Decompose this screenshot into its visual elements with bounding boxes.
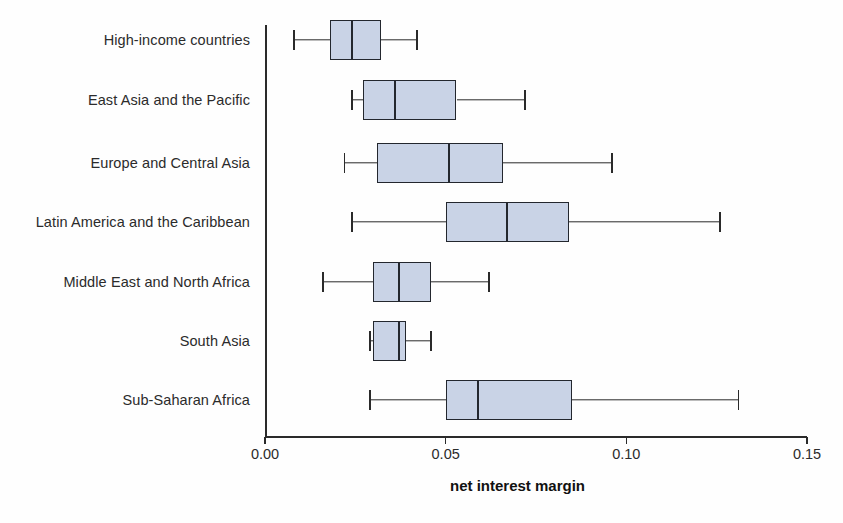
category-label: Sub-Saharan Africa — [0, 393, 250, 408]
median-line — [398, 321, 400, 361]
category-label: High-income countries — [0, 33, 250, 48]
whisker-line-low — [370, 399, 446, 400]
box-iqr — [373, 262, 431, 302]
category-label: Middle East and North Africa — [0, 275, 250, 290]
whisker-cap-high — [719, 212, 721, 232]
box-iqr — [363, 80, 457, 120]
x-axis-tick-mark — [806, 437, 808, 444]
whisker-cap-low — [369, 331, 371, 351]
whisker-cap-high — [738, 390, 740, 410]
whisker-cap-low — [344, 153, 346, 173]
x-axis-tick-mark — [626, 437, 628, 444]
x-axis-line — [265, 436, 807, 438]
median-line — [477, 380, 479, 420]
whisker-line-low — [344, 162, 377, 163]
whisker-line-high — [569, 221, 721, 222]
x-axis-title-text: net interest margin — [450, 477, 585, 494]
whisker-line-high — [431, 281, 489, 282]
category-label: Europe and Central Asia — [0, 156, 250, 171]
whisker-cap-low — [322, 272, 324, 292]
y-axis-line — [265, 25, 267, 437]
whisker-line-high — [381, 39, 417, 40]
whisker-line-low — [352, 99, 363, 100]
whisker-cap-low — [351, 212, 353, 232]
whisker-line-high — [572, 399, 738, 400]
category-label: East Asia and the Pacific — [0, 93, 250, 108]
x-axis-tick-label: 0.00 — [251, 447, 279, 462]
whisker-cap-high — [488, 272, 490, 292]
box-iqr — [446, 380, 572, 420]
median-line — [351, 20, 353, 60]
x-axis-tick-label: 0.15 — [793, 447, 821, 462]
whisker-cap-high — [430, 331, 432, 351]
median-line — [394, 80, 396, 120]
whisker-cap-high — [416, 30, 418, 50]
whisker-line-high — [406, 340, 431, 341]
x-axis-tick-mark — [445, 437, 447, 444]
whisker-cap-high — [524, 90, 526, 110]
whisker-cap-low — [293, 30, 295, 50]
x-axis-tick-label: 0.10 — [612, 447, 640, 462]
whisker-cap-high — [611, 153, 613, 173]
box-iqr — [373, 321, 406, 361]
box-iqr — [330, 20, 381, 60]
x-axis-title: net interest margin — [0, 478, 843, 493]
whisker-line-low — [352, 221, 446, 222]
category-label: Latin America and the Caribbean — [0, 215, 250, 230]
whisker-line-low — [323, 281, 374, 282]
whisker-line-low — [294, 39, 330, 40]
whisker-cap-low — [369, 390, 371, 410]
median-line — [506, 202, 508, 242]
x-axis-tick-label: 0.05 — [432, 447, 460, 462]
median-line — [448, 143, 450, 183]
whisker-line-high — [457, 99, 526, 100]
category-label: South Asia — [0, 334, 250, 349]
median-line — [398, 262, 400, 302]
whisker-cap-low — [351, 90, 353, 110]
box-iqr — [377, 143, 503, 183]
x-axis-tick-mark — [264, 437, 266, 444]
whisker-line-high — [503, 162, 611, 163]
box-plot-chart: High-income countriesEast Asia and the P… — [0, 0, 843, 523]
